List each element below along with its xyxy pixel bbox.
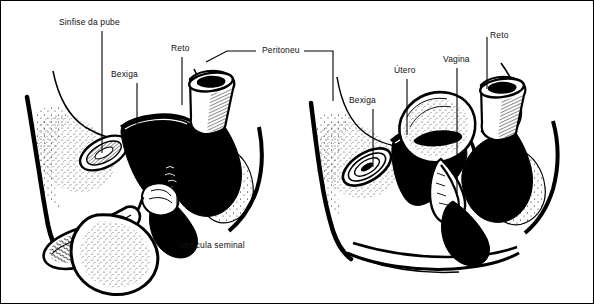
- label-utero: Útero: [394, 65, 416, 75]
- female-uterus: [399, 92, 475, 162]
- male-seminal-vesicle: [160, 162, 188, 187]
- male-scrotum: [71, 215, 158, 295]
- leader-peritoneu-right: [304, 51, 333, 101]
- label-reto-female: Reto: [490, 30, 509, 40]
- label-reto-male: Reto: [171, 43, 190, 53]
- female-rectum-tube: [479, 76, 525, 140]
- label-peritoneu: Peritoneu: [262, 45, 300, 55]
- male-prostate-group: [142, 183, 179, 215]
- female-panel-group: [311, 63, 558, 272]
- label-vesicula-seminal: Vesicula seminal: [179, 240, 245, 250]
- label-bexiga-female: Bexiga: [349, 95, 376, 105]
- male-rectum-tube: [188, 70, 234, 134]
- male-panel-group: [27, 69, 262, 295]
- label-sinfise-da-pube: Sinfise da pube: [59, 17, 120, 27]
- label-bexiga-male: Bexiga: [111, 69, 138, 79]
- anatomical-figure: Sinfise da pube Bexiga Reto Peritoneu Ve…: [0, 0, 594, 304]
- leader-peritoneu-left: [206, 51, 256, 62]
- female-perineum-upper: [353, 243, 517, 257]
- label-vagina: Vagina: [443, 54, 470, 64]
